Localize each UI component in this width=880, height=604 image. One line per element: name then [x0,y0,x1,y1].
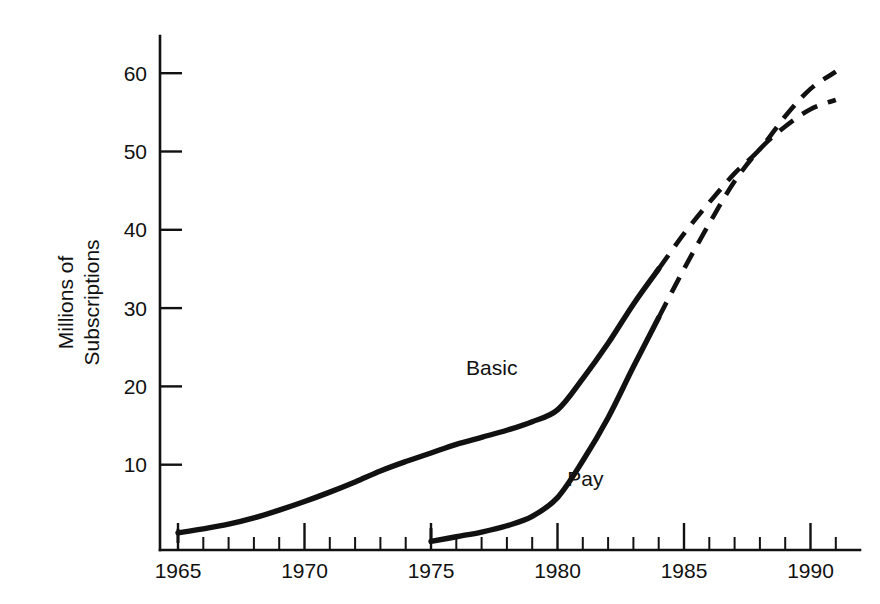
y-tick-label: 40 [124,218,147,241]
y-tick-label: 30 [124,297,147,320]
chart-series [178,72,836,543]
line-chart: 102030405060 196519701975198019851990 Mi… [0,0,880,604]
x-tick-label: 1975 [408,559,455,582]
x-tick-label: 1990 [787,559,834,582]
x-tick-label: 1965 [155,559,202,582]
series-basic [178,72,836,543]
y-tick-label: 10 [124,453,147,476]
y-axis-title-rotated: Millions ofSubscriptions [54,239,103,365]
series-line-actual [178,269,659,533]
y-tick-label: 50 [124,140,147,163]
series-line-projected [659,100,836,318]
chart-axes [160,36,860,550]
x-axis-ticks: 196519701975198019851990 [155,523,836,582]
series-line-projected [659,72,836,269]
y-tick-label: 60 [124,62,147,85]
y-axis-ticks: 102030405060 [124,62,182,477]
y-tick-label: 20 [124,375,147,398]
series-label-basic: Basic [466,356,517,379]
series-label-pay: Pay [567,467,604,490]
series-line-actual [431,318,659,542]
x-tick-label: 1980 [534,559,581,582]
series-pay [431,100,836,543]
y-axis-title-line: Subscriptions [80,239,103,365]
x-tick-label: 1985 [661,559,708,582]
y-axis-title: Millions ofSubscriptions [54,239,103,365]
chart-container: 102030405060 196519701975198019851990 Mi… [0,0,880,604]
y-axis-title-line: Millions of [54,256,77,350]
x-tick-label: 1970 [281,559,328,582]
